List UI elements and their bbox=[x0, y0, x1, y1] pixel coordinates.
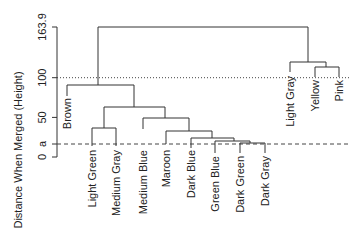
tick-label: a bbox=[36, 140, 48, 147]
y-tick-labels: 163.9 100 50 a 0 bbox=[36, 13, 48, 160]
y-axis bbox=[52, 27, 57, 157]
leaf-label-yellow: Yellow bbox=[309, 80, 321, 111]
dendrogram-links bbox=[67, 27, 339, 153]
y-axis-label: Distance When Merged (Height) bbox=[12, 71, 24, 228]
tick-label: 0 bbox=[36, 154, 48, 160]
leaf-label-pink: Pink bbox=[333, 80, 345, 102]
tick-label: 50 bbox=[36, 111, 48, 123]
leaf-label-light-green: Light Green bbox=[86, 150, 98, 207]
leaf-label-dark-gray: Dark Gray bbox=[259, 156, 271, 207]
leaf-label-light-gray: Light Gray bbox=[284, 76, 296, 127]
tick-label: 163.9 bbox=[36, 13, 48, 41]
leaf-label-dark-blue: Dark Blue bbox=[185, 150, 197, 198]
tick-label: 100 bbox=[36, 69, 48, 87]
dendrogram-chart: Distance When Merged (Height) 163.9 100 … bbox=[0, 0, 361, 236]
leaf-label-green-blue: Green Blue bbox=[209, 156, 221, 212]
leaf-label-medium-gray: Medium Gray bbox=[110, 150, 122, 217]
leaf-label-maroon: Maroon bbox=[160, 150, 172, 187]
leaf-label-brown: Brown bbox=[61, 98, 73, 129]
leaf-labels: Brown Light Green Medium Gray Medium Blu… bbox=[61, 76, 345, 217]
leaf-label-dark-green: Dark Green bbox=[234, 156, 246, 213]
leaf-label-medium-blue: Medium Blue bbox=[137, 150, 149, 214]
